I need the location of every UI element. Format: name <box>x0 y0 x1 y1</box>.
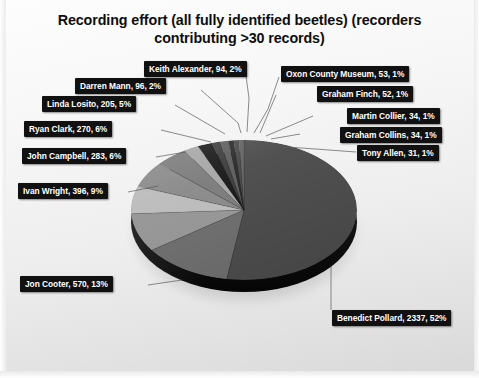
label-tony-allen[interactable]: Tony Allen, 31, 1% <box>357 145 439 161</box>
label-john-campbell[interactable]: John Campbell, 283, 6% <box>22 148 126 164</box>
label-ryan-clark[interactable]: Ryan Clark, 270, 6% <box>24 121 112 137</box>
label-martin-collier[interactable]: Martin Collier, 34, 1% <box>347 108 440 124</box>
label-keith-alexander[interactable]: Keith Alexander, 94, 2% <box>144 61 247 77</box>
slide-canvas: Recording effort (all fully identified b… <box>0 0 479 378</box>
slide-bottom-edge <box>0 371 479 378</box>
pie-slices-svg <box>131 140 357 280</box>
pie-slice-group <box>131 140 357 280</box>
label-graham-collins[interactable]: Graham Collins, 34, 1% <box>340 127 442 143</box>
chart-title-line-1: Recording effort (all fully identified b… <box>58 12 422 28</box>
slide-right-edge <box>474 0 479 378</box>
slide-left-edge <box>0 0 6 378</box>
chart-title: Recording effort (all fully identified b… <box>36 12 443 47</box>
chart-title-line-2: contributing >30 records) <box>154 30 324 46</box>
label-oxon-county-museum[interactable]: Oxon County Museum, 53, 1% <box>281 66 409 82</box>
label-linda-losito[interactable]: Linda Losito, 205, 5% <box>42 96 136 112</box>
pie-chart <box>123 122 367 312</box>
label-graham-finch[interactable]: Graham Finch, 52, 1% <box>317 86 413 102</box>
label-ivan-wright[interactable]: Ivan Wright, 396, 9% <box>18 183 108 199</box>
pie-top-face <box>131 140 357 280</box>
label-darren-mann[interactable]: Darren Mann, 96, 2% <box>75 78 166 94</box>
label-benedict-pollard[interactable]: Benedict Pollard, 2337, 52% <box>332 310 451 326</box>
label-jon-cooter[interactable]: Jon Cooter, 570, 13% <box>20 276 113 292</box>
